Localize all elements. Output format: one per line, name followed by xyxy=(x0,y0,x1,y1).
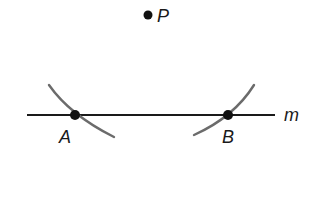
point-b xyxy=(223,110,233,120)
label-m: m xyxy=(284,105,299,125)
point-a xyxy=(70,110,80,120)
label-a: A xyxy=(58,127,71,147)
construction-diagram: P A B m xyxy=(0,0,319,198)
label-p: P xyxy=(157,6,169,26)
label-b: B xyxy=(222,127,234,147)
point-p xyxy=(144,11,153,20)
